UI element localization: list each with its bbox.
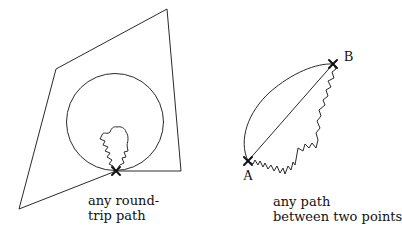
round-trip-caption-line1: any round- xyxy=(88,193,159,208)
quadrilateral-path xyxy=(19,9,181,209)
point-b-label: B xyxy=(344,49,353,65)
point-a-marker xyxy=(244,157,252,165)
round-trip-caption: any round- trip path xyxy=(88,193,159,223)
point-a-label: A xyxy=(243,168,253,184)
two-points-caption-line2: between two points xyxy=(273,209,402,224)
round-trip-figure xyxy=(19,9,181,209)
two-points-figure xyxy=(244,60,337,174)
circular-path xyxy=(67,74,164,171)
two-points-caption: any path between two points xyxy=(273,194,402,224)
round-trip-caption-line2: trip path xyxy=(88,208,159,223)
two-points-caption-line1: any path xyxy=(273,194,402,209)
zigzag-loop-path xyxy=(100,127,128,171)
zigzag-path xyxy=(248,64,336,174)
